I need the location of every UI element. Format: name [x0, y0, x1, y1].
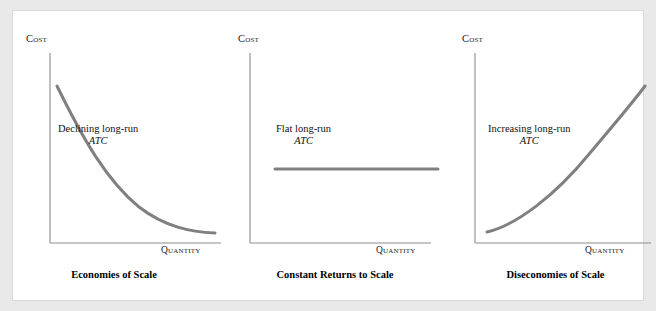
curve-annotation-atc: ATC: [488, 135, 571, 147]
curve-annotation-atc: ATC: [276, 135, 331, 147]
plot-area-constant-returns: [226, 11, 444, 251]
panel-caption-diseconomies-of-scale: Diseconomies of Scale: [458, 269, 653, 280]
x-axis-label-quantity: Quantity: [585, 245, 625, 255]
curve-annotation-line1: Increasing long-run: [488, 123, 571, 134]
curve-declining-atc: [57, 86, 215, 233]
curve-annotation-line1: Flat long-run: [276, 123, 331, 134]
chart-panel-diseconomies-of-scale: Cost Increasing long-run ATC Quantity Di…: [450, 11, 645, 302]
figure-panel: Cost Declining long-run ATC Quantity Eco…: [12, 10, 644, 301]
curve-annotation-declining: Declining long-run ATC: [58, 123, 138, 148]
curve-annotation-line1: Declining long-run: [58, 123, 138, 134]
chart-panel-constant-returns-to-scale: Cost Flat long-run ATC Quantity Constant…: [226, 11, 444, 302]
curve-annotation-atc: ATC: [58, 135, 138, 147]
panel-caption-economies-of-scale: Economies of Scale: [5, 269, 223, 280]
curve-annotation-increasing: Increasing long-run ATC: [488, 123, 571, 148]
x-axis-label-quantity: Quantity: [161, 245, 201, 255]
x-axis-label-quantity: Quantity: [376, 245, 416, 255]
panel-caption-constant-returns-to-scale: Constant Returns to Scale: [226, 269, 444, 280]
chart-panel-economies-of-scale: Cost Declining long-run ATC Quantity Eco…: [13, 11, 231, 302]
curve-increasing-atc: [487, 86, 645, 232]
curve-annotation-flat: Flat long-run ATC: [276, 123, 331, 148]
figure-frame: Cost Declining long-run ATC Quantity Eco…: [0, 0, 656, 311]
